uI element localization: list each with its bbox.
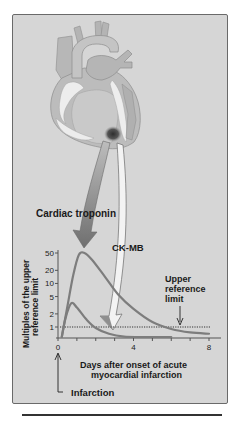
x-tick-label: 0	[56, 343, 61, 352]
x-tick-label: 4	[131, 343, 136, 352]
x-tick-label: 8	[207, 343, 212, 352]
y-tick-label: 20	[45, 266, 54, 275]
heart-illustration	[51, 21, 141, 149]
ckmb-label: CK-MB	[112, 242, 144, 253]
y-tick-label: 10	[45, 279, 54, 288]
infarct-zone	[104, 126, 122, 142]
upper-ref-label-line2: reference	[165, 284, 206, 294]
troponin-release-arrow	[73, 141, 110, 248]
y-tick-label: 1	[50, 323, 55, 332]
y-tick-label: 2	[50, 310, 55, 319]
ckmb-release-arrow	[100, 143, 126, 330]
y-tick-label: 5	[50, 293, 55, 302]
troponin-label: Cardiac troponin	[36, 208, 116, 219]
x-axis-label-line1: Days after onset of acute	[80, 360, 187, 370]
x-axis-label-line2: myocardial infarction	[91, 370, 182, 380]
upper-ref-pointer-arrow	[177, 306, 183, 325]
pulmonary-trunk	[86, 50, 132, 80]
biomarker-chart: 125102050 048	[45, 249, 221, 352]
troponin-curve	[62, 252, 209, 337]
y-axis-label-line2: reference limit	[30, 278, 40, 336]
infarction-marker-arrow	[55, 353, 63, 392]
infarction-label: Infarction	[71, 387, 114, 398]
y-tick-label: 50	[45, 249, 54, 258]
upper-ref-label-line1: Upper	[165, 274, 192, 284]
figure-art: Cardiac troponin CK-MB Multiples of the …	[0, 0, 244, 424]
upper-ref-label-line3: limit	[165, 294, 184, 304]
